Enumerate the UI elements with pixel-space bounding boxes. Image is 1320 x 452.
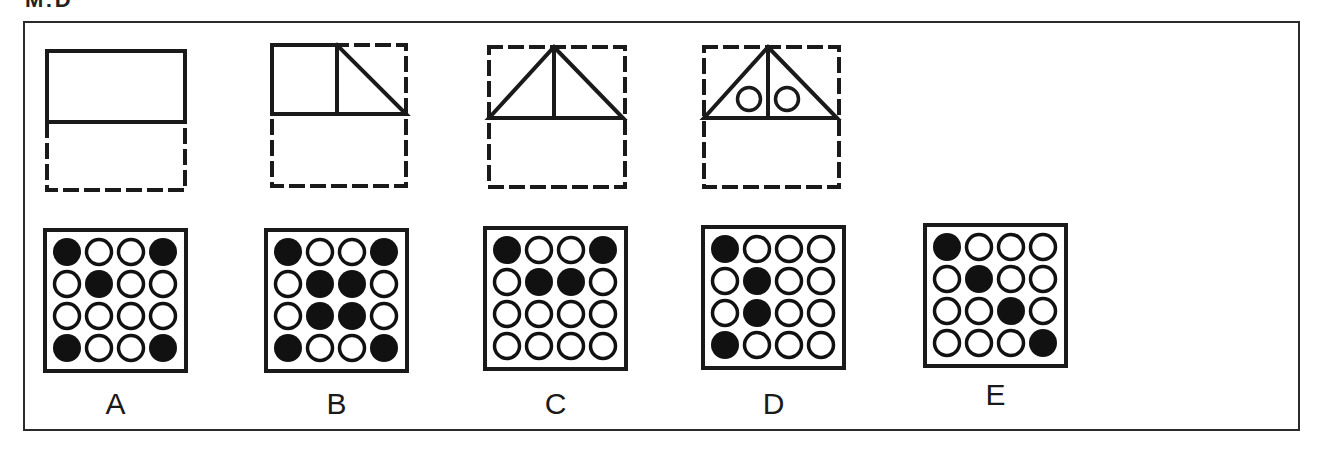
filled-circle — [997, 297, 1025, 325]
empty-circle — [713, 269, 738, 294]
filled-circle — [965, 265, 993, 293]
option-label: A — [105, 387, 125, 420]
filled-circle — [525, 268, 553, 296]
filled-circle — [338, 270, 366, 298]
filled-circle — [933, 233, 961, 261]
empty-circle — [559, 302, 584, 327]
option-d[interactable]: D — [703, 227, 844, 420]
empty-circle — [308, 240, 333, 265]
empty-circle — [527, 334, 552, 359]
empty-circle — [495, 334, 520, 359]
filled-circle — [149, 334, 177, 362]
empty-circle — [151, 304, 176, 329]
empty-circle — [495, 302, 520, 327]
empty-circle — [372, 272, 397, 297]
empty-circle — [809, 301, 834, 326]
empty-circle — [1031, 235, 1056, 260]
empty-circle — [119, 304, 144, 329]
filled-circle — [274, 334, 302, 362]
option-label: C — [545, 387, 567, 420]
option-c[interactable]: C — [485, 228, 626, 420]
empty-circle — [87, 336, 112, 361]
filled-circle — [711, 235, 739, 263]
filled-circle — [370, 238, 398, 266]
empty-circle — [591, 334, 616, 359]
empty-circle — [967, 235, 992, 260]
option-e[interactable]: E — [925, 225, 1066, 411]
empty-circle — [340, 240, 365, 265]
empty-circle — [935, 331, 960, 356]
empty-circle — [777, 301, 802, 326]
empty-circle — [87, 304, 112, 329]
empty-circle — [999, 331, 1024, 356]
empty-circle — [999, 235, 1024, 260]
empty-circle — [967, 299, 992, 324]
filled-circle — [85, 270, 113, 298]
empty-circle — [119, 336, 144, 361]
option-b[interactable]: B — [266, 230, 407, 420]
empty-circle — [55, 272, 80, 297]
option-label: D — [763, 387, 785, 420]
empty-circle — [777, 269, 802, 294]
filled-circle — [53, 334, 81, 362]
filled-circle — [557, 268, 585, 296]
sequence-panel-2 — [272, 45, 406, 186]
empty-circle — [809, 237, 834, 262]
empty-circle — [999, 267, 1024, 292]
empty-circle — [1031, 267, 1056, 292]
empty-circle — [713, 301, 738, 326]
empty-circle — [591, 270, 616, 295]
empty-circle — [372, 304, 397, 329]
filled-circle — [149, 238, 177, 266]
empty-circle — [745, 237, 770, 262]
empty-circle — [527, 302, 552, 327]
sequence-panel-4 — [704, 47, 839, 187]
empty-circle — [495, 270, 520, 295]
empty-circle — [527, 238, 552, 263]
empty-circle — [276, 304, 301, 329]
filled-circle — [306, 302, 334, 330]
filled-circle — [370, 334, 398, 362]
filled-circle — [743, 267, 771, 295]
empty-circle — [559, 238, 584, 263]
empty-circle — [591, 302, 616, 327]
empty-circle — [809, 333, 834, 358]
empty-circle — [777, 237, 802, 262]
option-label: B — [326, 387, 346, 420]
empty-circle — [119, 272, 144, 297]
puzzle-stage: M:D — [0, 0, 1320, 452]
filled-circle — [711, 331, 739, 359]
empty-circle — [151, 272, 176, 297]
filled-circle — [1029, 329, 1057, 357]
empty-circle — [777, 333, 802, 358]
small-circle-right — [776, 88, 799, 111]
empty-circle — [745, 333, 770, 358]
empty-circle — [55, 304, 80, 329]
empty-circle — [935, 267, 960, 292]
sequence-panel-1 — [47, 51, 185, 190]
filled-circle — [589, 236, 617, 264]
option-a[interactable]: A — [45, 230, 186, 420]
filled-circle — [306, 270, 334, 298]
filled-circle — [493, 236, 521, 264]
filled-circle — [743, 299, 771, 327]
filled-circle — [274, 238, 302, 266]
empty-circle — [119, 240, 144, 265]
empty-circle — [87, 240, 112, 265]
empty-circle — [559, 334, 584, 359]
options-layer: ABCDE — [45, 225, 1066, 420]
sequence-panel-3 — [489, 47, 625, 187]
option-label: E — [985, 378, 1005, 411]
empty-circle — [935, 299, 960, 324]
filled-circle — [338, 302, 366, 330]
empty-circle — [276, 272, 301, 297]
empty-circle — [308, 336, 333, 361]
empty-circle — [340, 336, 365, 361]
empty-circle — [809, 269, 834, 294]
empty-circle — [1031, 299, 1056, 324]
puzzle-drawing: ABCDE — [0, 0, 1320, 452]
small-circle-left — [738, 88, 761, 111]
filled-circle — [53, 238, 81, 266]
empty-circle — [967, 331, 992, 356]
